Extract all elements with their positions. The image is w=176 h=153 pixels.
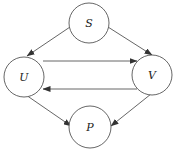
diagram-canvas: SUVP xyxy=(0,0,176,153)
node-u: U xyxy=(4,57,44,97)
nodes-group: SUVP xyxy=(4,3,172,148)
node-s: S xyxy=(69,3,109,43)
node-label: V xyxy=(148,69,157,82)
node-label: P xyxy=(85,121,94,134)
node-label: U xyxy=(19,71,29,84)
edge-s-to-v xyxy=(108,27,152,55)
node-p: P xyxy=(69,106,111,148)
node-v: V xyxy=(132,55,172,95)
edge-v-to-p xyxy=(111,94,151,126)
edge-s-to-u xyxy=(27,27,70,56)
edge-u-to-p xyxy=(26,95,71,126)
graph-svg: SUVP xyxy=(0,0,176,153)
node-label: S xyxy=(85,17,93,30)
